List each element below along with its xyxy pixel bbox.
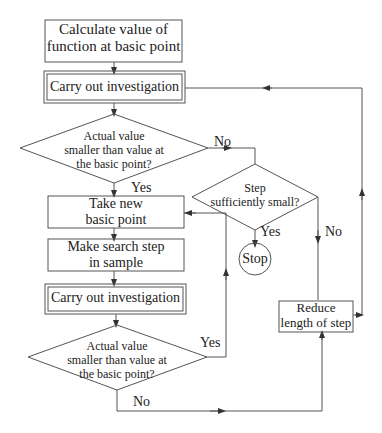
reduce-line1: Reduce [279, 301, 353, 316]
decision1-line1: Actual value [54, 130, 174, 144]
decision1-line2: smaller than value at [54, 144, 174, 158]
decision2-no-label: No [133, 394, 150, 410]
calc-label: Calculate value of function at basic poi… [45, 21, 182, 56]
decision1-line3: the basic point? [54, 158, 174, 172]
decision2-label: Actual value smaller than value at the b… [57, 340, 177, 381]
investigate1-label: Carry out investigation [44, 79, 185, 95]
stop-label: Stop [239, 251, 271, 267]
decision1-no-label: No [214, 134, 231, 150]
step-small-line2: sufficiently small? [205, 196, 305, 210]
decision2-yes-label: Yes [200, 335, 220, 351]
step-yes-label: Yes [260, 224, 280, 240]
search-step-line2: in sample [48, 255, 184, 271]
take-new-line1: Take new [48, 196, 184, 212]
decision2-line2: smaller than value at [57, 354, 177, 368]
step-small-line1: Step [205, 182, 305, 196]
step-no-label: No [325, 224, 342, 240]
reduce-line2: length of step [279, 316, 353, 331]
reduce-label: Reduce length of step [279, 301, 353, 331]
calc-label-line2: function at basic point [45, 38, 182, 55]
decision1-label: Actual value smaller than value at the b… [54, 130, 174, 171]
take-new-line2: basic point [48, 212, 184, 228]
search-step-line1: Make search step [48, 239, 184, 255]
step-small-label: Step sufficiently small? [205, 182, 305, 210]
decision1-yes-label: Yes [131, 180, 151, 196]
search-step-label: Make search step in sample [48, 239, 184, 271]
decision2-line3: the basic point? [57, 368, 177, 382]
take-new-label: Take new basic point [48, 196, 184, 228]
decision2-line1: Actual value [57, 340, 177, 354]
investigate2-label: Carry out investigation [45, 290, 186, 306]
calc-label-line1: Calculate value of [45, 21, 182, 38]
